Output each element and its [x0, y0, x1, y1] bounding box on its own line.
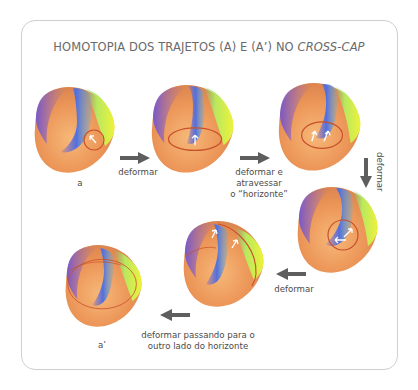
cross-cap-figure-step3 — [274, 80, 366, 174]
arrow-right-icon — [120, 152, 150, 164]
title-italic: CROSS-CAP — [298, 40, 365, 54]
transition-label-5-line1: deformar passando para o — [128, 330, 268, 341]
cross-cap-figure-step4 — [293, 184, 383, 276]
cross-cap-figure-a-prime — [64, 242, 144, 330]
transition-label-2-line2: atravessar — [224, 178, 294, 189]
title-text: HOMOTOPIA DOS TRAJETOS (A) E (A’) NO — [53, 40, 297, 54]
transition-label-5: deformar passando para o outro lado do h… — [128, 330, 268, 352]
transition-label-2-line3: o “horizonte” — [224, 189, 294, 200]
arrow-right-icon — [240, 152, 270, 164]
cross-cap-figure-step5 — [178, 218, 270, 310]
cross-cap-figure-a — [33, 84, 117, 176]
label-a: a — [70, 178, 90, 189]
arrow-left-icon — [276, 268, 306, 280]
cross-cap-figure-step2 — [148, 82, 238, 176]
arrow-left-icon — [160, 309, 190, 321]
transition-label-5-line2: outro lado do horizonte — [128, 341, 268, 352]
transition-label-4: deformar — [264, 284, 324, 295]
figure-title: HOMOTOPIA DOS TRAJETOS (A) E (A’) NO CRO… — [0, 40, 418, 54]
label-a-prime: a’ — [92, 340, 112, 351]
